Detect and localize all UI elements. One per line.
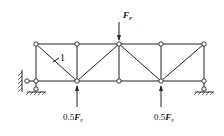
member-label: 1 xyxy=(60,52,65,63)
bottom-load-arrow-right xyxy=(159,85,163,107)
bottom-load-label-left: 0.5FP xyxy=(63,112,83,123)
bottom-load-arrow-left xyxy=(75,85,79,107)
top-load-arrow xyxy=(117,22,121,41)
diagonal-2 xyxy=(77,44,119,81)
left-wall-support xyxy=(18,70,22,92)
bottom-load-label-right: 0.5FP xyxy=(154,112,174,123)
truss-members xyxy=(27,44,204,81)
diagonal-3 xyxy=(119,44,161,81)
truss-diagram: 1 xyxy=(0,0,224,136)
truss-nodes xyxy=(25,42,206,83)
diagonal-4 xyxy=(161,44,204,81)
top-load-label: FP xyxy=(122,10,133,21)
diagonal-member-1 xyxy=(36,44,77,81)
